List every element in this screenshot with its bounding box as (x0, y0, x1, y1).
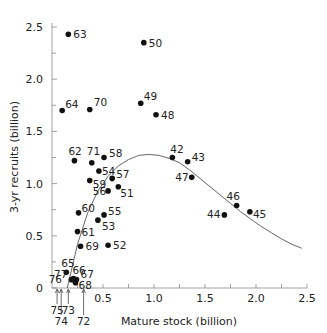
point-label-43: 43 (192, 151, 205, 163)
data-point-77 (69, 277, 75, 283)
data-point-62 (72, 158, 78, 164)
point-label-50: 50 (149, 37, 162, 49)
point-label-45: 45 (253, 208, 266, 220)
data-point-56 (105, 188, 111, 194)
point-label-49: 49 (144, 90, 157, 102)
data-point-71 (89, 160, 95, 166)
data-point-53 (95, 217, 101, 223)
annotation-label-73: 73 (62, 304, 75, 316)
data-point-49 (138, 100, 144, 106)
data-point-46 (234, 203, 240, 209)
data-point-47 (189, 175, 195, 181)
data-point-70 (87, 107, 93, 113)
point-label-47: 47 (175, 171, 188, 183)
point-label-42: 42 (170, 143, 183, 155)
data-point-59 (87, 178, 93, 184)
point-label-68: 68 (78, 279, 91, 291)
data-point-52 (105, 242, 111, 248)
x-tick-label: 1.0 (145, 292, 163, 305)
data-points: 6350647049486271585459575651605553616952… (54, 28, 266, 290)
data-point-55 (101, 212, 107, 218)
point-label-51: 51 (120, 187, 133, 199)
stock-recruitment-scatter: 00.51.01.52.02.50.51.01.52.02.5 63506470… (0, 0, 327, 333)
point-label-53: 53 (102, 220, 115, 232)
point-label-70: 70 (94, 96, 107, 108)
data-point-42 (170, 155, 176, 161)
data-point-50 (141, 40, 147, 46)
point-label-60: 60 (82, 202, 95, 214)
data-point-57 (109, 176, 115, 182)
x-tick-label: 2.5 (298, 292, 316, 305)
point-label-58: 58 (109, 147, 122, 159)
data-point-60 (76, 210, 82, 216)
point-label-71: 71 (87, 145, 100, 157)
data-point-44 (222, 212, 228, 218)
data-point-45 (247, 209, 253, 215)
y-tick-label: 1.0 (26, 178, 44, 191)
point-label-52: 52 (113, 239, 126, 251)
point-label-56: 56 (93, 185, 107, 197)
data-point-54 (96, 168, 102, 174)
annotation-label-74: 74 (54, 315, 68, 327)
data-point-63 (66, 32, 72, 38)
data-point-48 (153, 112, 159, 118)
x-tick-label: 1.5 (196, 292, 214, 305)
x-tick-label: 0.5 (94, 292, 112, 305)
x-axis-title: Mature stock (billion) (121, 315, 237, 328)
y-axis-title: 3-yr recruits (billion) (8, 101, 21, 213)
point-label-61: 61 (82, 226, 95, 238)
point-label-62: 62 (68, 145, 81, 157)
point-label-48: 48 (161, 109, 174, 121)
annotation-label-72: 72 (77, 315, 90, 327)
annotation-label-76: 76 (49, 273, 63, 285)
y-tick-label: 2.0 (26, 73, 44, 86)
point-label-55: 55 (108, 205, 121, 217)
point-label-46: 46 (227, 190, 241, 202)
point-label-64: 64 (65, 98, 79, 110)
y-tick-label: 2.5 (26, 21, 44, 34)
data-point-61 (75, 229, 81, 235)
point-label-63: 63 (73, 28, 86, 40)
y-tick-label: 1.5 (26, 125, 44, 138)
point-label-44: 44 (207, 208, 221, 220)
x-tick-label: 2.0 (247, 292, 265, 305)
data-point-64 (59, 108, 65, 114)
data-point-58 (101, 155, 107, 161)
data-point-69 (78, 243, 84, 249)
point-label-69: 69 (86, 240, 99, 252)
point-label-57: 57 (116, 168, 129, 180)
data-point-43 (185, 159, 191, 165)
y-tick-label: 0 (36, 282, 43, 295)
y-tick-label: 0.5 (26, 230, 44, 243)
point-label-54: 54 (102, 165, 116, 177)
